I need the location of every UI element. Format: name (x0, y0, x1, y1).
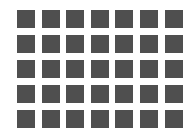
grid-square (140, 35, 158, 53)
grid-square (91, 85, 109, 103)
grid-square (42, 60, 60, 78)
grid-square (165, 10, 183, 28)
grid-square (115, 85, 133, 103)
grid-square (115, 35, 133, 53)
grid-square (42, 85, 60, 103)
square-grid (17, 10, 183, 128)
grid-square (17, 110, 35, 128)
grid-square (165, 60, 183, 78)
grid-square (140, 85, 158, 103)
grid-square (66, 85, 84, 103)
grid-square (165, 35, 183, 53)
grid-square (115, 60, 133, 78)
grid-square (66, 110, 84, 128)
grid-square (91, 35, 109, 53)
grid-square (91, 10, 109, 28)
grid-square (165, 85, 183, 103)
grid-square (165, 110, 183, 128)
grid-square (42, 35, 60, 53)
grid-square (91, 110, 109, 128)
grid-square (42, 10, 60, 28)
grid-square (42, 110, 60, 128)
grid-square (66, 10, 84, 28)
grid-square (17, 35, 35, 53)
grid-square (91, 60, 109, 78)
grid-square (66, 60, 84, 78)
grid-square (140, 60, 158, 78)
grid-square (66, 35, 84, 53)
grid-square (115, 10, 133, 28)
grid-square (140, 10, 158, 28)
grid-square (115, 110, 133, 128)
grid-square (17, 85, 35, 103)
grid-square (140, 110, 158, 128)
grid-square (17, 10, 35, 28)
grid-square (17, 60, 35, 78)
